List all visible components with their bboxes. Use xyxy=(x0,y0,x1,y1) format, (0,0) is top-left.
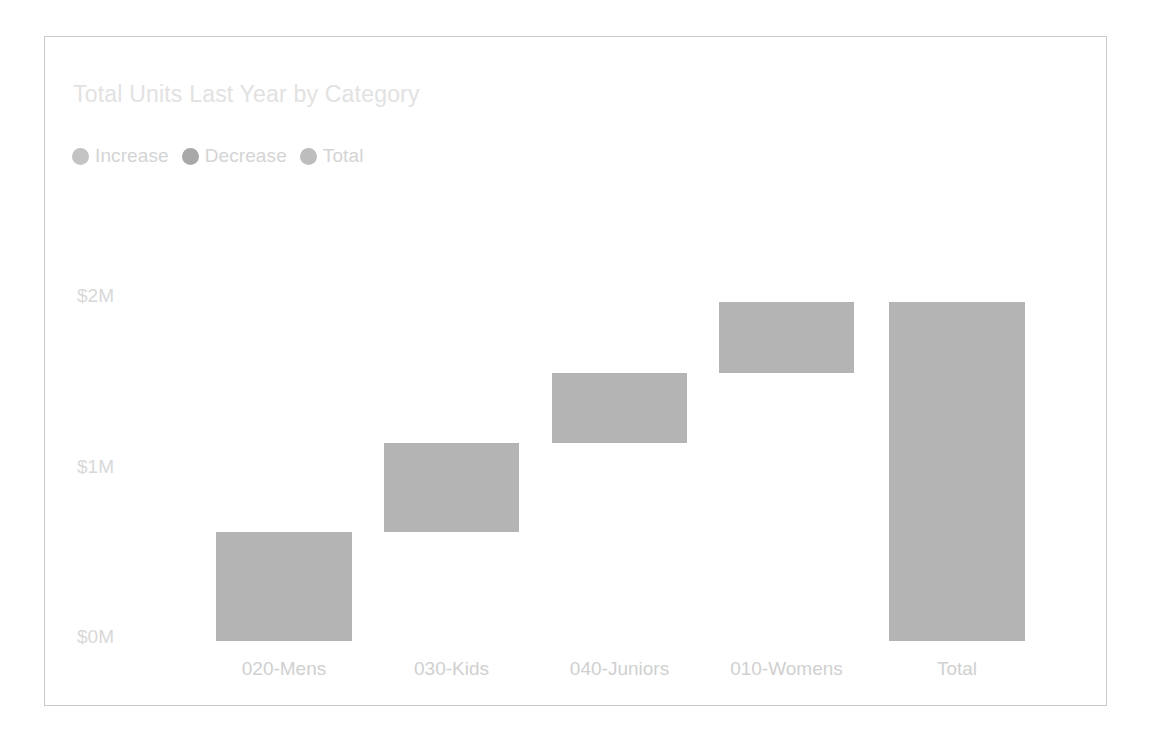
y-axis-tick-label: $0M xyxy=(77,626,114,648)
x-axis-tick-label: 030-Kids xyxy=(414,658,489,680)
x-axis-tick-label: 040-Juniors xyxy=(570,658,669,680)
waterfall-chart-card[interactable]: Total Units Last Year by Category Increa… xyxy=(44,36,1107,706)
y-axis-tick-label: $2M xyxy=(77,285,114,307)
x-axis-tick-label: 020-Mens xyxy=(242,658,327,680)
bar-040-juniors[interactable] xyxy=(552,373,687,443)
y-axis-tick-label: $1M xyxy=(77,456,114,478)
plot-area: $0M$1M$2M 020-Mens030-Kids040-Juniors010… xyxy=(45,37,1106,705)
bar-020-mens[interactable] xyxy=(216,532,352,641)
bar-total[interactable] xyxy=(889,302,1025,641)
bar-010-womens[interactable] xyxy=(719,302,854,374)
x-axis-tick-label: Total xyxy=(937,658,977,680)
bar-030-kids[interactable] xyxy=(384,443,519,532)
x-axis-tick-label: 010-Womens xyxy=(730,658,843,680)
